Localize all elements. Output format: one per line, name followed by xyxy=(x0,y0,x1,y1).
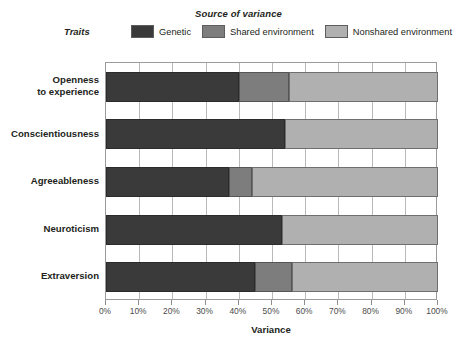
y-axis-label: Extraversion xyxy=(0,270,99,282)
y-axis-label: Conscientiousness xyxy=(0,128,99,140)
y-axis-label: Opennessto experience xyxy=(0,74,99,97)
x-axis-tick xyxy=(138,300,139,305)
x-axis-tick-label: 100% xyxy=(420,306,454,316)
legend-label-genetic: Genetic xyxy=(159,27,191,37)
y-axis-label: Agreeableness xyxy=(0,175,99,187)
legend-label-nonshared: Nonshared environment xyxy=(353,27,452,37)
bar-row[interactable] xyxy=(106,72,436,102)
x-axis-tick xyxy=(304,300,305,305)
bar-segment[interactable] xyxy=(282,215,438,245)
bar-row[interactable] xyxy=(106,215,436,245)
bar-segment[interactable] xyxy=(106,167,229,197)
x-axis-tick xyxy=(238,300,239,305)
bar-segment[interactable] xyxy=(292,262,438,292)
x-axis-tick xyxy=(171,300,172,305)
x-axis-title: Variance xyxy=(105,324,437,335)
x-axis-tick xyxy=(437,300,438,305)
bars-layer xyxy=(106,63,436,299)
legend-item-genetic[interactable]: Genetic xyxy=(131,25,191,38)
bar-segment[interactable] xyxy=(106,262,255,292)
bar-row[interactable] xyxy=(106,119,436,149)
bar-segment[interactable] xyxy=(106,72,239,102)
legend-swatch-nonshared xyxy=(325,25,348,38)
y-axis-labels: Opennessto experienceConscientiousnessAg… xyxy=(0,62,99,300)
legend-swatch-genetic xyxy=(131,25,154,38)
y-axis-label: Neuroticism xyxy=(0,223,99,235)
x-axis-ticks xyxy=(105,300,437,305)
x-axis-tick xyxy=(337,300,338,305)
x-axis-tick-label: 0% xyxy=(88,306,122,316)
bar-segment[interactable] xyxy=(239,72,289,102)
x-axis-tick-label: 40% xyxy=(221,306,255,316)
x-axis-tick-label: 60% xyxy=(287,306,321,316)
bar-segment[interactable] xyxy=(255,262,292,292)
x-axis-tick xyxy=(105,300,106,305)
chart-legend-block: Source of variance Traits GeneticShared … xyxy=(0,8,463,38)
x-axis-tick-label: 30% xyxy=(188,306,222,316)
legend-swatch-shared xyxy=(202,25,225,38)
legend-items: GeneticShared environmentNonshared envir… xyxy=(131,25,463,38)
x-axis-tick-label: 10% xyxy=(121,306,155,316)
traits-axis-label: Traits xyxy=(64,26,131,37)
bar-segment[interactable] xyxy=(285,119,438,149)
legend-label-shared: Shared environment xyxy=(230,27,314,37)
bar-segment[interactable] xyxy=(289,72,438,102)
x-axis-tick xyxy=(404,300,405,305)
x-axis-tick-label: 70% xyxy=(320,306,354,316)
x-axis-tick xyxy=(371,300,372,305)
x-axis-tick-labels: 0%10%20%30%40%50%60%70%80%90%100% xyxy=(0,306,463,320)
bar-segment[interactable] xyxy=(106,119,285,149)
x-axis-tick-label: 80% xyxy=(354,306,388,316)
legend-item-nonshared[interactable]: Nonshared environment xyxy=(325,25,452,38)
bar-row[interactable] xyxy=(106,167,436,197)
x-axis-tick xyxy=(205,300,206,305)
legend-item-shared[interactable]: Shared environment xyxy=(202,25,314,38)
x-axis-tick-label: 20% xyxy=(154,306,188,316)
legend-row: Traits GeneticShared environmentNonshare… xyxy=(0,25,463,38)
bar-segment[interactable] xyxy=(229,167,252,197)
bar-segment[interactable] xyxy=(106,215,282,245)
legend-title: Source of variance xyxy=(14,8,463,19)
plot-area xyxy=(105,62,437,300)
bar-row[interactable] xyxy=(106,262,436,292)
x-axis-tick-label: 90% xyxy=(387,306,421,316)
x-axis-tick-label: 50% xyxy=(254,306,288,316)
x-axis-tick xyxy=(271,300,272,305)
bar-segment[interactable] xyxy=(252,167,438,197)
